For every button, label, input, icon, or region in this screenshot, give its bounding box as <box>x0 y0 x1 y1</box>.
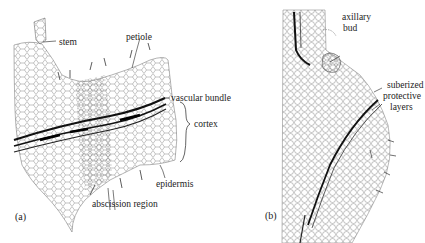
label-protective: protective <box>383 91 421 101</box>
abscission-diagram: stem petiole vascular bundle cortex epid… <box>0 0 425 243</box>
label-epidermis: epidermis <box>156 179 193 189</box>
panel-marker-b: (b) <box>265 211 277 221</box>
label-axillary: axillary <box>342 12 371 22</box>
label-stem: stem <box>59 37 77 47</box>
panel-marker-a: (a) <box>15 212 26 222</box>
label-suberized: suberized <box>387 80 423 90</box>
label-cortex: cortex <box>194 119 218 129</box>
label-layers: layers <box>390 102 413 112</box>
label-abscission-region: abscission region <box>92 199 158 209</box>
panel-b-drawing <box>282 10 396 243</box>
label-bud: bud <box>343 23 357 33</box>
label-vascular-bundle: vascular bundle <box>171 93 231 103</box>
label-petiole: petiole <box>126 32 152 42</box>
